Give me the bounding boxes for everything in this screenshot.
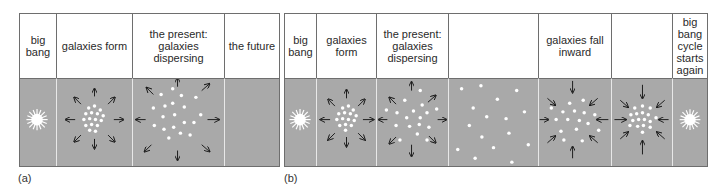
scene-burst <box>20 78 56 166</box>
panel-b-col-contracting <box>611 14 672 166</box>
panel-b-col-cycle-again: big bang cycle starts again <box>672 14 707 166</box>
panel-b: big bang galaxies form <box>284 13 708 167</box>
column-header: big bang cycle starts again <box>673 14 707 78</box>
panel-a-col-galaxies-form: galaxies form <box>56 14 132 166</box>
panel-a-col-present: the present: galaxies dispersing <box>132 14 224 166</box>
scene-empty <box>224 78 279 166</box>
scene-expand-sparse <box>132 78 224 166</box>
scene-expand-sparse <box>376 78 448 166</box>
galaxies-expanding-icon <box>57 79 132 166</box>
scene-burst <box>285 78 316 166</box>
panel-b-col-fall-inward: galaxies fall inward <box>538 14 611 166</box>
column-header <box>449 14 538 78</box>
big-bang-burst-icon <box>285 79 316 166</box>
galaxies-collapsing-icon <box>612 79 672 166</box>
column-header: galaxies form <box>57 14 132 78</box>
scene-expand-dense <box>56 78 132 166</box>
column-header: galaxies form <box>317 14 376 78</box>
panel-b-label: (b) <box>284 172 297 184</box>
column-header: big bang <box>20 14 56 78</box>
big-bang-burst-icon <box>673 79 707 166</box>
galaxies-dispersing-icon <box>133 79 224 166</box>
panel-a-label: (a) <box>18 172 31 184</box>
galaxies-expanding-icon <box>317 79 376 166</box>
galaxies-contracting-icon <box>539 79 611 166</box>
galaxies-dispersing-icon <box>377 79 448 166</box>
scene-contract-dense <box>611 78 672 166</box>
panel-a-col-future: the future <box>224 14 279 166</box>
panel-b-col-galaxies-form: galaxies form <box>316 14 376 166</box>
column-header: the present: galaxies dispersing <box>377 14 448 78</box>
column-header: big bang <box>285 14 316 78</box>
panel-a: big bang galaxies form <box>19 13 280 167</box>
panel-a-col-big-bang: big bang <box>20 14 56 166</box>
scene-scattered <box>448 78 538 166</box>
panel-b-col-present: the present: galaxies dispersing <box>376 14 448 166</box>
scene-burst <box>672 78 707 166</box>
big-bang-burst-icon <box>20 79 56 166</box>
column-header: the future <box>225 14 279 78</box>
galaxies-scattered-icon <box>449 79 538 166</box>
scene-expand-dense <box>316 78 376 166</box>
column-header <box>612 14 672 78</box>
panel-b-col-scattered <box>448 14 538 166</box>
column-header: galaxies fall inward <box>539 14 611 78</box>
column-header: the present: galaxies dispersing <box>133 14 224 78</box>
panel-b-col-big-bang: big bang <box>285 14 316 166</box>
scene-contract-sparse <box>538 78 611 166</box>
